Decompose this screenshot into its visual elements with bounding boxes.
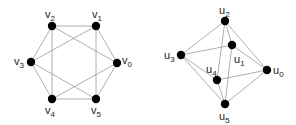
label-u3: u3 xyxy=(164,49,175,64)
graph-diagram: v0v1v2v3v4v5u0u1u2u3u4u5 xyxy=(0,0,296,125)
label-v0: v0 xyxy=(122,54,133,69)
node-u3 xyxy=(177,51,185,59)
edge-v1-v3 xyxy=(31,26,96,62)
label-u4: u4 xyxy=(206,63,217,78)
node-v4 xyxy=(48,95,56,103)
node-u0 xyxy=(263,66,271,74)
label-v1: v1 xyxy=(92,8,103,23)
node-v5 xyxy=(92,95,100,103)
edge-u2-u3 xyxy=(181,21,225,55)
edge-v3-v5 xyxy=(31,62,96,99)
label-v3: v3 xyxy=(14,55,25,70)
edge-v4-v0 xyxy=(52,63,117,99)
node-v2 xyxy=(48,22,56,30)
label-v4: v4 xyxy=(45,104,56,119)
node-u1 xyxy=(228,41,236,49)
label-u0: u0 xyxy=(273,64,284,79)
label-v2: v2 xyxy=(45,8,56,23)
label-u1: u1 xyxy=(234,53,245,68)
edge-u5-u0 xyxy=(225,70,267,104)
edge-u4-u0 xyxy=(217,70,267,80)
edge-u1-u5 xyxy=(225,45,232,104)
label-u2: u2 xyxy=(219,4,230,19)
edge-v2-v0 xyxy=(52,26,117,63)
node-v0 xyxy=(113,59,121,67)
labels-layer: v0v1v2v3v4v5u0u1u2u3u4u5 xyxy=(14,4,284,125)
label-u5: u5 xyxy=(219,110,230,125)
node-u5 xyxy=(221,100,229,108)
edges-layer xyxy=(31,21,267,104)
node-v3 xyxy=(27,58,35,66)
node-v1 xyxy=(92,22,100,30)
edge-u2-u4 xyxy=(217,21,225,80)
label-v5: v5 xyxy=(91,104,102,119)
edge-u3-u1 xyxy=(181,45,232,55)
